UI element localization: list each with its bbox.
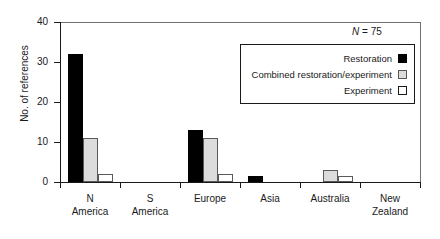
x-axis-category-label-line: Zealand bbox=[350, 205, 430, 218]
bar bbox=[218, 174, 233, 182]
bar bbox=[323, 170, 338, 182]
legend-swatch-combined bbox=[398, 70, 407, 79]
legend-swatch-restoration bbox=[398, 54, 407, 63]
x-axis-tick bbox=[360, 182, 361, 188]
x-axis-category-label-line: New bbox=[350, 192, 430, 205]
bar bbox=[203, 138, 218, 182]
legend-item-label: Restoration bbox=[343, 53, 392, 64]
y-axis-tick-label: 0 bbox=[18, 177, 48, 187]
x-axis-category-label-line: America bbox=[110, 205, 190, 218]
plot-frame-right bbox=[420, 22, 421, 182]
x-axis-category-label: NewZealand bbox=[350, 192, 430, 218]
bar bbox=[68, 54, 83, 182]
legend-item: Restoration bbox=[248, 50, 407, 66]
bar bbox=[83, 138, 98, 182]
legend-swatch-experiment bbox=[398, 86, 407, 95]
legend-item-label: Experiment bbox=[344, 85, 392, 96]
bar bbox=[248, 176, 263, 182]
legend-item: Combined restoration/experiment bbox=[248, 66, 407, 82]
sample-size-annotation: N = 75 bbox=[352, 26, 382, 37]
x-axis-tick bbox=[300, 182, 301, 188]
legend-item-label: Combined restoration/experiment bbox=[252, 69, 392, 80]
bar bbox=[98, 174, 113, 182]
sample-size-value: = 75 bbox=[359, 26, 382, 37]
bar bbox=[188, 130, 203, 182]
x-axis-tick bbox=[420, 182, 421, 188]
x-axis-tick bbox=[180, 182, 181, 188]
y-axis-title: No. of references bbox=[19, 14, 30, 154]
x-axis-tick bbox=[60, 182, 61, 188]
x-axis-tick bbox=[120, 182, 121, 188]
chart-legend: RestorationCombined restoration/experime… bbox=[240, 44, 415, 104]
legend-item: Experiment bbox=[248, 82, 407, 98]
bar bbox=[338, 176, 353, 182]
bar-chart-figure: 010203040 No. of references NAmericaSAme… bbox=[0, 0, 440, 239]
x-axis-tick bbox=[240, 182, 241, 188]
